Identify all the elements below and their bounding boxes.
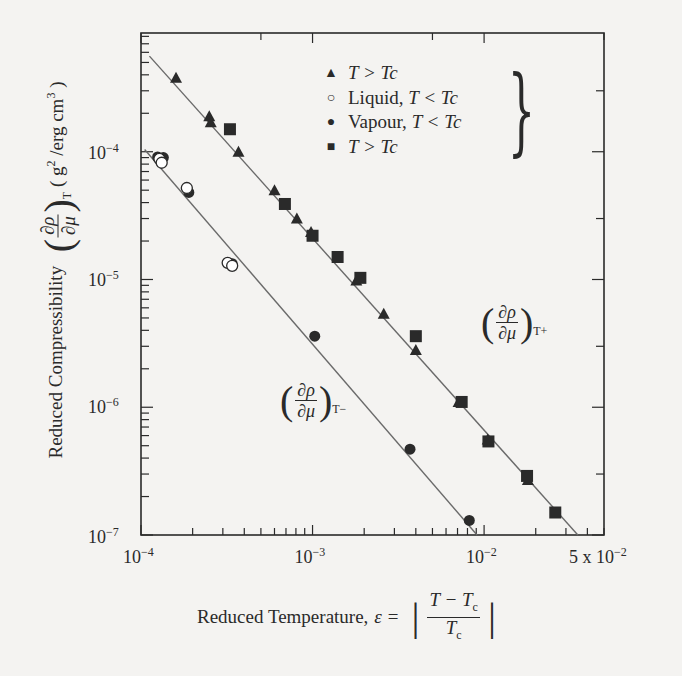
y-label-derivative: ( ∂ρ∂μ ) T — [38, 192, 79, 253]
filled-circle-icon: ● — [322, 110, 340, 135]
square-icon: ■ — [322, 135, 340, 160]
square-marker — [410, 330, 422, 342]
x-tick-label: 10−3 — [295, 545, 326, 568]
square-marker — [332, 251, 344, 263]
triangle-marker — [170, 72, 182, 83]
y-tick-label: 10−4 — [88, 141, 119, 164]
legend-brace: } — [508, 62, 535, 158]
legend-item: ●Vapour, T < Tc — [322, 110, 461, 135]
triangle-icon: ▲ — [322, 61, 340, 86]
filled-circle-marker — [405, 444, 416, 455]
x-tick-label: 10−2 — [466, 545, 497, 568]
legend-item: ○Liquid, T < Tc — [322, 86, 461, 111]
y-label-units: ( g2 /erg cm3 ) — [45, 82, 66, 188]
square-marker — [456, 396, 468, 408]
square-marker — [279, 198, 291, 210]
filled-circle-marker — [464, 515, 475, 526]
square-marker — [307, 230, 319, 242]
triangle-marker — [268, 184, 280, 195]
open-circle-icon: ○ — [322, 86, 340, 111]
fit-line-t-minus — [145, 150, 477, 535]
square-marker — [224, 123, 236, 135]
square-marker — [482, 435, 494, 447]
legend: ▲T > Tc○Liquid, T < Tc●Vapour, T < Tc■T … — [322, 61, 461, 159]
annotation-t-minus: ( ∂ρ∂μ ) T− — [280, 380, 346, 421]
legend-item: ▲T > Tc — [322, 61, 461, 86]
y-tick-label: 10−5 — [88, 268, 119, 291]
y-axis-label: Reduced Compressibility ( ∂ρ∂μ ) T ( g2 … — [38, 82, 79, 459]
square-marker — [549, 507, 561, 519]
x-axis-label: Reduced Temperature, ε = | T − TcTc | — [197, 590, 496, 645]
x-tick-label: 10−4 — [123, 545, 154, 568]
triangle-marker — [291, 213, 303, 224]
square-marker — [354, 272, 366, 284]
legend-item: ■T > Tc — [322, 135, 461, 160]
open-circle-marker — [227, 260, 238, 271]
x-tick-label: 5 x 10−2 — [569, 545, 627, 568]
filled-circle-marker — [309, 331, 320, 342]
open-circle-marker — [156, 157, 167, 168]
open-circle-marker — [181, 183, 192, 194]
y-tick-label: 10−7 — [88, 525, 119, 548]
annotation-t-plus: ( ∂ρ∂μ ) T+ — [481, 302, 547, 343]
y-tick-label: 10−6 — [88, 395, 119, 418]
square-marker — [521, 470, 533, 482]
